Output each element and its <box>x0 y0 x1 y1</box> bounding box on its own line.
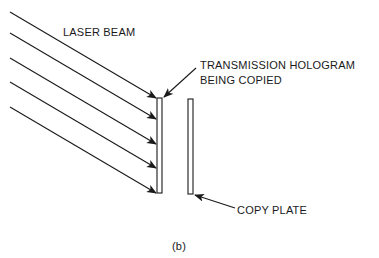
diagram-graphics <box>0 0 379 258</box>
laser-ray-1 <box>10 12 156 98</box>
laser-beam-rays <box>10 12 156 193</box>
figure-caption: (b) <box>172 240 186 253</box>
hologram-copy-diagram: LASER BEAM TRANSMISSION HOLOGRAM BEING C… <box>0 0 379 258</box>
laser-ray-2 <box>10 33 156 119</box>
copy-plate-label: COPY PLATE <box>237 204 307 217</box>
laser-ray-4 <box>10 82 156 168</box>
copy-plate <box>188 99 193 194</box>
laser-ray-5 <box>10 107 156 193</box>
laser-ray-3 <box>10 58 156 144</box>
hologram-label-line1: TRANSMISSION HOLOGRAM <box>200 59 355 72</box>
hologram-label-line2: BEING COPIED <box>200 74 282 87</box>
hologram-leader-arrow <box>164 68 196 97</box>
laser-beam-label: LASER BEAM <box>63 26 135 39</box>
copy-plate-leader-arrow <box>195 195 235 208</box>
transmission-hologram-plate <box>157 98 162 193</box>
